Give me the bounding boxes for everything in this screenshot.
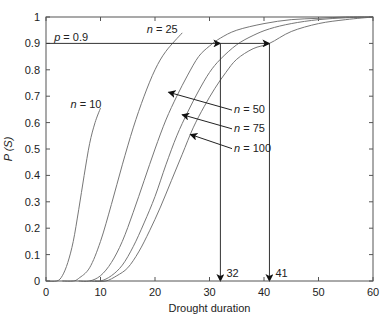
curve-n10 xyxy=(46,108,101,281)
annotation-arrow xyxy=(182,115,232,129)
annotation-label: n = 100 xyxy=(234,142,271,154)
x-tick-label: 0 xyxy=(43,286,49,298)
y-tick-label: 0.2 xyxy=(25,222,40,234)
annotation-label: p = 0.9 xyxy=(53,31,88,43)
x-tick-label: 20 xyxy=(149,286,161,298)
annotation-label: n = 50 xyxy=(234,103,265,115)
x-tick-label: 40 xyxy=(258,286,270,298)
plot-frame xyxy=(46,17,373,281)
axis-ticks: 010203040506000.10.20.30.40.50.60.70.80.… xyxy=(25,11,379,298)
line-chart: 010203040506000.10.20.30.40.50.60.70.80.… xyxy=(0,0,388,321)
x-tick-label: 10 xyxy=(94,286,106,298)
y-tick-label: 1 xyxy=(34,11,40,23)
y-tick-label: 0.1 xyxy=(25,249,40,261)
annotation-label: 41 xyxy=(275,267,287,279)
y-axis-label: P (S) xyxy=(2,136,14,161)
y-tick-label: 0.6 xyxy=(25,117,40,129)
curve-n75 xyxy=(90,17,373,281)
annotation-label: n = 75 xyxy=(234,122,265,134)
curve-n25 xyxy=(62,33,182,281)
y-tick-label: 0 xyxy=(34,275,40,287)
y-tick-label: 0.5 xyxy=(25,143,40,155)
curve-n50 xyxy=(79,17,373,281)
x-tick-label: 50 xyxy=(312,286,324,298)
annotation-arrow xyxy=(169,92,232,110)
annotation-label: n = 25 xyxy=(147,23,178,35)
annotation-arrow xyxy=(190,134,232,148)
y-tick-label: 0.7 xyxy=(25,90,40,102)
x-axis-label: Drought duration xyxy=(169,302,251,314)
annotation-label: n = 10 xyxy=(71,98,102,110)
curves xyxy=(46,17,373,281)
y-tick-label: 0.4 xyxy=(25,169,40,181)
chart-container: 010203040506000.10.20.30.40.50.60.70.80.… xyxy=(0,0,388,321)
reference-lines xyxy=(46,43,269,281)
annotation-label: 32 xyxy=(226,267,238,279)
y-tick-label: 0.3 xyxy=(25,196,40,208)
y-tick-label: 0.9 xyxy=(25,37,40,49)
x-tick-label: 30 xyxy=(203,286,215,298)
x-tick-label: 60 xyxy=(367,286,379,298)
y-tick-label: 0.8 xyxy=(25,64,40,76)
